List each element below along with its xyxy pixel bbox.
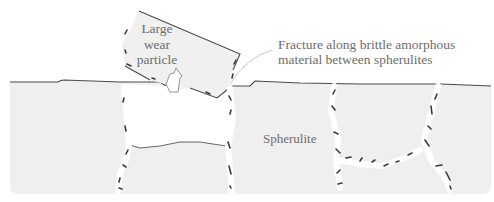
label-fracture-line-2: material between spherulites	[278, 52, 455, 67]
label-fracture-line-1: Fracture along brittle amorphous	[278, 37, 455, 52]
label-large-wear-particle: Large wear particle	[132, 21, 182, 68]
diagram-figure	[0, 0, 494, 202]
label-fracture: Fracture along brittle amorphous materia…	[278, 37, 455, 67]
label-particle-line-1: Large	[132, 21, 182, 37]
substrate	[10, 80, 491, 194]
label-spherulite: Spherulite	[263, 131, 316, 146]
label-particle-line-2: wear	[132, 37, 182, 53]
label-particle-line-3: particle	[132, 52, 182, 68]
